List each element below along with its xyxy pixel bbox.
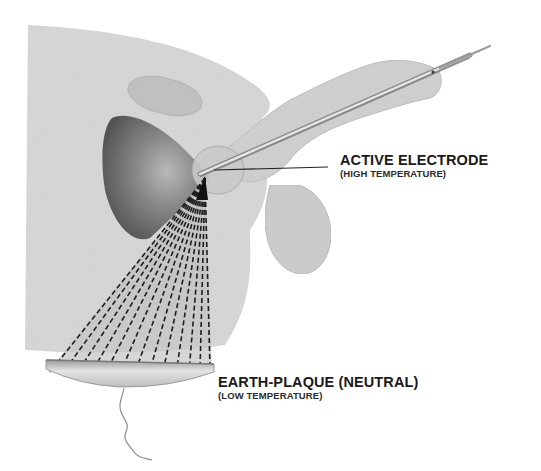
active-electrode-subtitle: (HIGH TEMPERATURE)	[340, 168, 488, 180]
earth-plaque-subtitle: (LOW TEMPERATURE)	[218, 390, 418, 402]
active-electrode-label: ACTIVE ELECTRODE (HIGH TEMPERATURE)	[340, 152, 488, 180]
earth-plaque-label: EARTH-PLAQUE (NEUTRAL) (LOW TEMPERATURE)	[218, 374, 418, 402]
return-cable	[120, 388, 152, 460]
diagram-canvas: ACTIVE ELECTRODE (HIGH TEMPERATURE) EART…	[0, 0, 541, 471]
scrotum	[265, 185, 331, 274]
active-electrode-title: ACTIVE ELECTRODE	[340, 152, 488, 168]
earth-plaque-pad	[46, 360, 214, 387]
earth-plaque-title: EARTH-PLAQUE (NEUTRAL)	[218, 374, 418, 390]
